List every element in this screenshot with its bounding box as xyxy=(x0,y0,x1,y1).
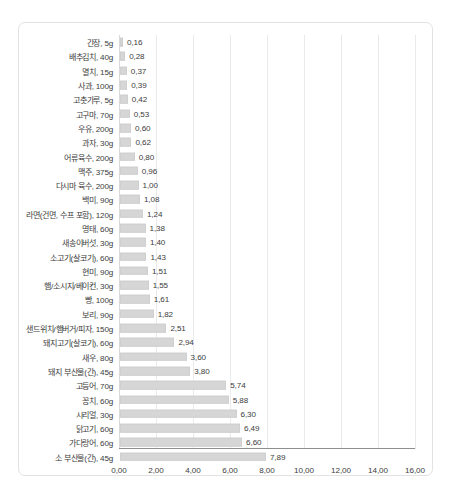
bar[interactable] xyxy=(120,181,139,190)
bar-row[interactable]: 고등어, 70g5,74 xyxy=(119,378,417,392)
x-tick-label: 4,00 xyxy=(185,466,200,475)
bar-value-label: 1,24 xyxy=(147,209,162,218)
bar[interactable] xyxy=(120,167,138,176)
bar[interactable] xyxy=(120,338,174,347)
bar-row[interactable]: 고구마, 70g0,53 xyxy=(119,106,417,120)
bar-value-label: 1,43 xyxy=(150,252,165,261)
category-label: 멸치, 15g xyxy=(82,65,113,76)
bar-row[interactable]: 돼지고기(살코기), 60g2,94 xyxy=(119,335,417,349)
category-label: 백미, 90g xyxy=(82,194,113,205)
bar-value-label: 5,74 xyxy=(230,381,245,390)
bar-row[interactable]: 어류육수, 200g0,80 xyxy=(119,149,417,163)
category-label: 소 부산물(간), 45g xyxy=(55,451,113,462)
bar[interactable] xyxy=(120,81,127,90)
category-label: 현미, 90g xyxy=(82,265,113,276)
bar-row[interactable]: 닭고기, 60g6,49 xyxy=(119,421,417,435)
category-label: 우유, 200g xyxy=(78,122,113,133)
bar[interactable] xyxy=(120,195,140,204)
bar-value-label: 1,40 xyxy=(150,238,165,247)
bar[interactable] xyxy=(120,452,266,461)
category-label: 닭고기, 60g xyxy=(76,423,113,434)
bar-rows: 간장, 5g0,16배추김치, 40g0,28멸치, 15g0,37사과, 10… xyxy=(119,35,417,464)
bar[interactable] xyxy=(120,438,242,447)
bar-row[interactable]: 빵, 100g1,61 xyxy=(119,292,417,306)
bar[interactable] xyxy=(120,209,143,218)
bar-row[interactable]: 소고기(살코기), 60g1,43 xyxy=(119,249,417,263)
category-label: 고구마, 70g xyxy=(76,108,113,119)
bar[interactable] xyxy=(120,38,123,47)
bar[interactable] xyxy=(120,367,190,376)
bar-row[interactable]: 멸치, 15g0,37 xyxy=(119,64,417,78)
category-label: 간장, 5g xyxy=(87,37,113,48)
bar[interactable] xyxy=(120,109,130,118)
bar-value-label: 1,38 xyxy=(150,224,165,233)
bar-value-label: 0,80 xyxy=(139,152,154,161)
bar[interactable] xyxy=(120,224,146,233)
bar-row[interactable]: 시리얼, 30g6,30 xyxy=(119,407,417,421)
category-label: 시리얼, 30g xyxy=(76,408,113,419)
bar-row[interactable]: 보리, 90g1,82 xyxy=(119,307,417,321)
bar-row[interactable]: 햄/소시지/베이컨, 30g1,55 xyxy=(119,278,417,292)
bar[interactable] xyxy=(120,52,125,61)
x-tick-label: 10,00 xyxy=(294,466,314,475)
bar-row[interactable]: 과자, 30g0,62 xyxy=(119,135,417,149)
category-label: 소고기(살코기), 60g xyxy=(50,251,113,262)
bar-row[interactable]: 가다랑어, 60g6,60 xyxy=(119,435,417,449)
bar-row[interactable]: 샌드위치/햄버거/피자, 150g2,51 xyxy=(119,321,417,335)
bar-row[interactable]: 명태, 60g1,38 xyxy=(119,221,417,235)
category-label: 고등어, 70g xyxy=(76,380,113,391)
bar[interactable] xyxy=(120,381,226,390)
category-label: 샌드위치/햄버거/피자, 150g xyxy=(26,323,113,334)
x-tick-label: 6,00 xyxy=(222,466,237,475)
bar[interactable] xyxy=(120,267,148,276)
bar-row[interactable]: 소 부산물(간), 45g7,89 xyxy=(119,450,417,464)
bar[interactable] xyxy=(120,309,154,318)
bar-row[interactable]: 다시마 육수, 200g1,00 xyxy=(119,178,417,192)
chart-frame: 간장, 5g0,16배추김치, 40g0,28멸치, 15g0,37사과, 10… xyxy=(18,22,433,476)
category-label: 배추김치, 40g xyxy=(69,51,113,62)
bar-value-label: 0,39 xyxy=(131,81,146,90)
x-tick-label: 0,00 xyxy=(111,466,126,475)
bar-value-label: 0,16 xyxy=(127,38,142,47)
bar-row[interactable]: 새송이버섯, 30g1,40 xyxy=(119,235,417,249)
bar-value-label: 6,30 xyxy=(241,409,256,418)
bar-row[interactable]: 현미, 90g1,51 xyxy=(119,264,417,278)
bar-row[interactable]: 꽁치, 60g5,88 xyxy=(119,392,417,406)
bar-value-label: 6,49 xyxy=(244,424,259,433)
x-tick-label: 16,00 xyxy=(405,466,425,475)
bar[interactable] xyxy=(120,410,237,419)
bar[interactable] xyxy=(120,281,149,290)
bar[interactable] xyxy=(120,138,131,147)
bar-value-label: 1,08 xyxy=(144,195,159,204)
bar-value-label: 0,37 xyxy=(131,66,146,75)
category-label: 꽁치, 60g xyxy=(82,394,113,405)
bar[interactable] xyxy=(120,252,146,261)
bar-value-label: 0,42 xyxy=(132,95,147,104)
category-label: 빵, 100g xyxy=(85,294,113,305)
bar[interactable] xyxy=(120,95,128,104)
bar-row[interactable]: 새우, 80g3,60 xyxy=(119,350,417,364)
bar-row[interactable]: 고춧가루, 5g0,42 xyxy=(119,92,417,106)
x-tick-label: 12,00 xyxy=(331,466,351,475)
bar[interactable] xyxy=(120,352,187,361)
bar-row[interactable]: 우유, 200g0,60 xyxy=(119,121,417,135)
bar[interactable] xyxy=(120,66,127,75)
category-label: 명태, 60g xyxy=(82,223,113,234)
bar-row[interactable]: 맥주, 375g0,96 xyxy=(119,164,417,178)
bar-row[interactable]: 돼지 부산물(간), 45g3,80 xyxy=(119,364,417,378)
bar-row[interactable]: 백미, 90g1,08 xyxy=(119,192,417,206)
bar[interactable] xyxy=(120,152,135,161)
bar[interactable] xyxy=(120,124,131,133)
bar-row[interactable]: 배추김치, 40g0,28 xyxy=(119,49,417,63)
bar[interactable] xyxy=(120,395,229,404)
bar-row[interactable]: 라면(건면, 수프 포함), 120g1,24 xyxy=(119,207,417,221)
bar[interactable] xyxy=(120,238,146,247)
bar-row[interactable]: 사과, 100g0,39 xyxy=(119,78,417,92)
bar[interactable] xyxy=(120,295,150,304)
bar-row[interactable]: 간장, 5g0,16 xyxy=(119,35,417,49)
bar[interactable] xyxy=(120,424,240,433)
bar[interactable] xyxy=(120,324,166,333)
bar-value-label: 6,60 xyxy=(246,438,261,447)
x-tick-label: 2,00 xyxy=(148,466,163,475)
category-label: 돼지고기(살코기), 60g xyxy=(43,337,113,348)
